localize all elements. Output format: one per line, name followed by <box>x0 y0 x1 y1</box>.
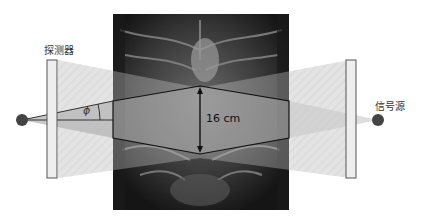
detector-panel-right <box>346 60 356 178</box>
angle-label: ϕ <box>83 104 90 117</box>
ct-geometry-diagram: 探测器 信号源 16 cm ϕ <box>0 0 422 224</box>
source-dot-right <box>372 114 384 126</box>
detector-panel <box>47 60 57 178</box>
dimension-label: 16 cm <box>206 112 240 125</box>
detector-label: 探测器 <box>44 42 74 57</box>
source-dot-left <box>16 114 28 126</box>
source-label: 信号源 <box>375 98 405 113</box>
